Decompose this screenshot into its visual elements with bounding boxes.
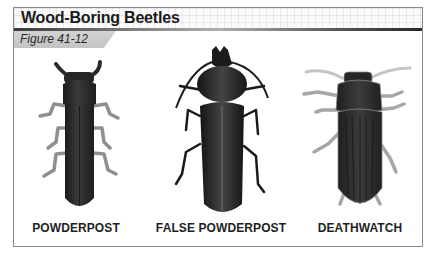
figure-number: Figure 41-12 bbox=[20, 32, 88, 46]
caption-deathwatch: DEATHWATCH bbox=[318, 221, 403, 235]
powderpost-beetle-icon bbox=[30, 58, 130, 218]
figure-title: Wood-Boring Beetles bbox=[21, 9, 180, 27]
caption-powderpost: POWDERPOST bbox=[32, 221, 120, 235]
caption-false-powderpost: FALSE POWDERPOST bbox=[156, 221, 286, 235]
title-divider bbox=[14, 28, 422, 31]
deathwatch-beetle-icon bbox=[300, 58, 420, 218]
false-powderpost-beetle-icon bbox=[160, 44, 285, 220]
